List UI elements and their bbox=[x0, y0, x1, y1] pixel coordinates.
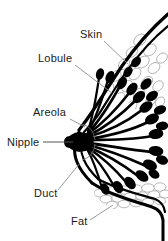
label-lobule: Lobule bbox=[38, 52, 72, 64]
label-areola: Areola bbox=[33, 106, 67, 118]
label-nipple: Nipple bbox=[7, 136, 39, 148]
label-skin: Skin bbox=[80, 28, 102, 40]
diagram-canvas: Skin Lobule Areola Nipple Duct Fat bbox=[0, 0, 168, 241]
label-duct: Duct bbox=[34, 187, 57, 199]
leader-skin bbox=[104, 41, 128, 64]
leader-duct bbox=[58, 163, 80, 190]
leader-fat bbox=[90, 205, 113, 220]
label-fat: Fat bbox=[71, 215, 88, 227]
breast-anatomy-diagram: Skin Lobule Areola Nipple Duct Fat bbox=[0, 0, 168, 241]
